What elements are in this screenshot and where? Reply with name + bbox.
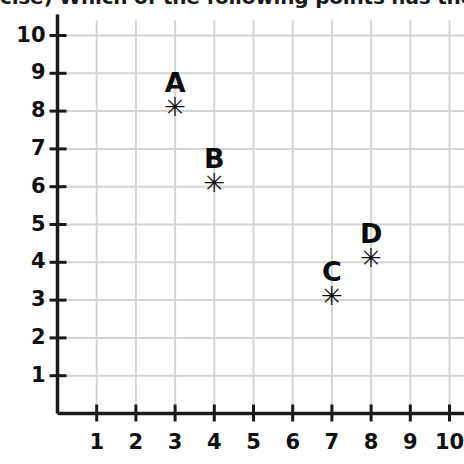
data-point-label-b: B <box>199 145 229 172</box>
plot-canvas <box>0 0 464 464</box>
y-tick-label: 9 <box>6 62 46 83</box>
y-tick-label: 8 <box>6 100 46 121</box>
data-point-marker-d[interactable]: ✳ <box>358 245 384 271</box>
data-point-label-c: C <box>317 258 347 285</box>
y-tick-label: 3 <box>6 289 46 310</box>
data-point-label-a: A <box>160 69 190 96</box>
y-tick-label: 2 <box>6 327 46 348</box>
x-tick-label: 8 <box>351 432 391 453</box>
x-tick-label: 4 <box>194 432 234 453</box>
x-tick-label: 9 <box>390 432 430 453</box>
x-tick-label: 10 <box>430 432 464 453</box>
scatter-plot: 12345678910 12345678910 ✳A✳B✳C✳D <box>0 0 464 464</box>
x-tick-label: 5 <box>234 432 274 453</box>
x-tick-label: 3 <box>155 432 195 453</box>
tick-marks <box>50 36 450 422</box>
y-tick-label: 4 <box>6 251 46 272</box>
x-tick-label: 6 <box>273 432 313 453</box>
data-point-label-d: D <box>356 220 386 247</box>
y-tick-label: 5 <box>6 214 46 235</box>
x-tick-label: 7 <box>312 432 352 453</box>
y-tick-label: 1 <box>6 365 46 386</box>
y-tick-label: 10 <box>6 25 46 46</box>
gridlines <box>58 20 464 413</box>
y-tick-label: 6 <box>6 176 46 197</box>
x-tick-label: 2 <box>116 432 156 453</box>
x-tick-label: 1 <box>77 432 117 453</box>
y-tick-label: 7 <box>6 138 46 159</box>
